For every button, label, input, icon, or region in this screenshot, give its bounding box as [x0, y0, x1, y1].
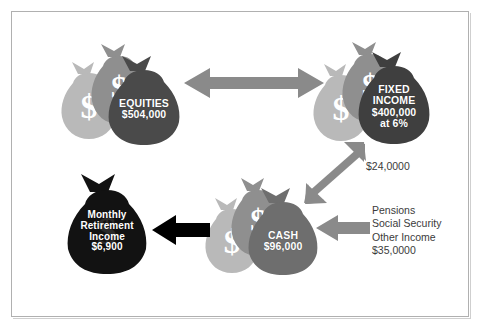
equities-label: EQUITIES $504,000: [104, 98, 184, 121]
retirement-income-bag: $ Monthly Retirement Income $6,900: [62, 172, 152, 276]
node-equities[interactable]: $ $ EQUITIES $504,000: [58, 32, 178, 140]
node-cash[interactable]: $ $ CASH $96,000: [202, 170, 320, 274]
arrow-cash-to-retirement-income[interactable]: [152, 214, 210, 246]
arrow-income-to-cash[interactable]: [316, 214, 370, 242]
annotation-other-income: Pensions Social Security Other Income $3…: [372, 204, 441, 258]
cash-label: CASH $96,000: [244, 230, 322, 253]
diagram-canvas: $ $ EQUITIES $504,000: [0, 0, 486, 330]
arrow-equities-fixed-income[interactable]: [184, 66, 324, 100]
node-fixed-income[interactable]: $ $ FIXED INCOME $400,000 at 6%: [310, 32, 430, 144]
annotation-interest-income: $24,0000: [366, 160, 410, 173]
equities-bag-front: EQUITIES $504,000: [104, 54, 184, 146]
fixed-income-bag-front: FIXED INCOME $400,000 at 6%: [354, 50, 434, 146]
node-retirement-income[interactable]: $ Monthly Retirement Income $6,900: [62, 172, 154, 276]
fixed-income-label: FIXED INCOME $400,000 at 6%: [354, 84, 434, 129]
cash-bag-front: CASH $96,000: [244, 186, 322, 276]
retirement-income-label: Monthly Retirement Income $6,900: [62, 210, 152, 253]
